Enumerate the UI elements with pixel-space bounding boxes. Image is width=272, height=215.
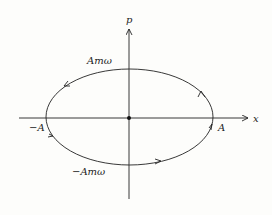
origin-point — [127, 116, 131, 120]
arrow-left-bottom-icon — [48, 134, 53, 137]
phase-space-diagram: p x Amω −Amω −A A — [0, 0, 272, 215]
right-label: A — [217, 122, 225, 133]
left-label: −A — [29, 122, 45, 133]
x-axis-label: x — [253, 113, 259, 124]
arrow-top-right-icon — [198, 91, 205, 97]
arrow-bottom-right-icon — [155, 159, 161, 164]
p-axis-label: p — [126, 14, 133, 25]
bottom-label: −Amω — [72, 166, 105, 177]
top-label: Amω — [86, 55, 112, 66]
